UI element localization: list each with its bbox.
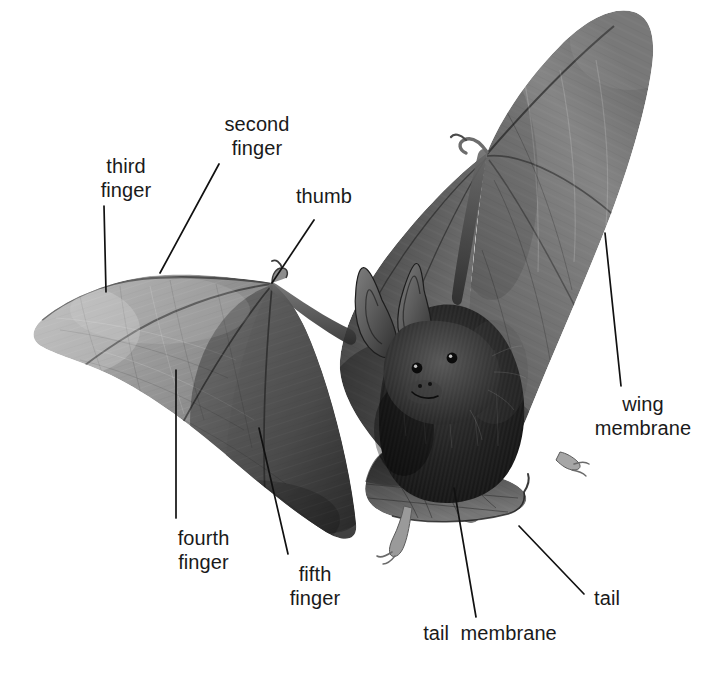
label-fourth-finger: fourthfinger xyxy=(141,526,266,574)
label-thumb: thumb xyxy=(274,184,374,208)
label-wing-membrane: wingmembrane xyxy=(583,392,703,440)
label-second-finger: secondfinger xyxy=(183,112,331,160)
label-tail-membrane: tail membrane xyxy=(405,621,575,645)
label-fifth-finger: fifthfinger xyxy=(260,562,370,610)
label-tail: tail xyxy=(577,586,637,610)
label-third-finger: thirdfinger xyxy=(62,154,190,202)
bat-anatomy-figure: secondfinger thirdfinger thumb wingmembr… xyxy=(0,0,705,683)
